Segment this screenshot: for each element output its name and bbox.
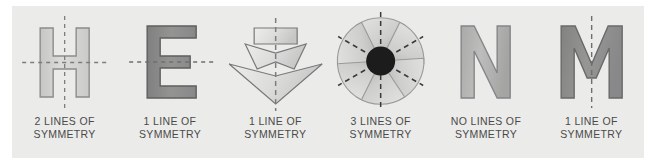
shape-six-petal-flower <box>328 6 433 114</box>
letter-n-outline <box>461 26 510 98</box>
caption-line-2: SYMMETRY <box>433 128 538 141</box>
symmetry-example-letter-n: NO LINES OF SYMMETRY <box>433 6 538 158</box>
caption-flower: 3 LINES OF SYMMETRY <box>328 115 433 141</box>
caption-letter-h: 2 LINES OF SYMMETRY <box>12 115 117 141</box>
flower-center <box>366 47 395 76</box>
caption-line-2: SYMMETRY <box>539 128 644 141</box>
shape-letter-e <box>117 6 222 114</box>
symmetry-examples-row: 2 LINES OF SYMMETRY <box>12 6 644 158</box>
shape-letter-m <box>539 6 644 114</box>
shape-letter-h <box>12 6 117 114</box>
symmetry-example-letter-h: 2 LINES OF SYMMETRY <box>12 6 117 158</box>
caption-line-1: 1 LINE OF <box>117 115 222 128</box>
caption-line-1: 3 LINES OF <box>328 115 433 128</box>
symmetry-example-letter-e: 1 LINE OF SYMMETRY <box>117 6 222 158</box>
caption-letter-n: NO LINES OF SYMMETRY <box>433 115 538 141</box>
caption-line-2: SYMMETRY <box>223 128 328 141</box>
symmetry-example-letter-m: 1 LINE OF SYMMETRY <box>539 6 644 158</box>
caption-line-2: SYMMETRY <box>12 128 117 141</box>
caption-line-2: SYMMETRY <box>328 128 433 141</box>
caption-arrow-tree: 1 LINE OF SYMMETRY <box>223 115 328 141</box>
symmetry-figure: 2 LINES OF SYMMETRY <box>0 0 655 167</box>
caption-line-1: 1 LINE OF <box>223 115 328 128</box>
symmetry-example-arrow-tree: 1 LINE OF SYMMETRY <box>223 6 328 158</box>
shape-arrow-tree <box>223 6 328 114</box>
caption-line-1: NO LINES OF <box>433 115 538 128</box>
caption-line-2: SYMMETRY <box>117 128 222 141</box>
caption-letter-m: 1 LINE OF SYMMETRY <box>539 115 644 141</box>
shape-letter-n <box>433 6 538 114</box>
caption-line-1: 2 LINES OF <box>12 115 117 128</box>
caption-line-1: 1 LINE OF <box>539 115 644 128</box>
caption-letter-e: 1 LINE OF SYMMETRY <box>117 115 222 141</box>
symmetry-example-flower: 3 LINES OF SYMMETRY <box>328 6 433 158</box>
